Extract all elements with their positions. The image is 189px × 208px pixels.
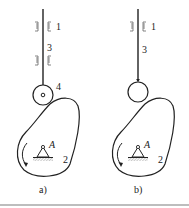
label-pivot: A (48, 139, 56, 150)
rotation-arrow-icon (117, 143, 122, 165)
panel-a: 1 3 4 A 2 a) (17, 9, 79, 196)
label-rod: 3 (47, 42, 52, 53)
label-roller: 4 (56, 81, 61, 92)
label-guide: 1 (56, 21, 61, 32)
panel-b: 1 3 A 2 b) (112, 9, 174, 196)
rotation-arrow-icon (22, 143, 27, 165)
cam-mechanism-diagram: 1 3 4 A 2 a) 1 3 (0, 0, 189, 208)
caption-b: b) (134, 184, 142, 196)
label-guide: 1 (151, 21, 156, 32)
arrow-head-icon (119, 162, 124, 167)
label-cam: 2 (158, 154, 163, 165)
label-cam: 2 (63, 154, 68, 165)
arrow-head-icon (24, 162, 29, 167)
bottom-separator (0, 204, 189, 206)
roller (33, 85, 53, 105)
cam-nose-circle (128, 82, 148, 102)
label-pivot: A (143, 139, 151, 150)
label-rod: 3 (142, 44, 147, 55)
caption-a: a) (39, 184, 47, 196)
